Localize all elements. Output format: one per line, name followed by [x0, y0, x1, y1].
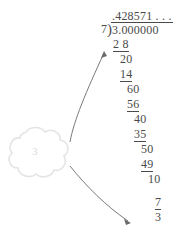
arrow-to-remainder-line: [70, 166, 128, 221]
division-step-7: 50: [141, 143, 153, 155]
arrow-to-first-subtraction-head: [101, 51, 107, 58]
arrow-to-remainder-head: [124, 219, 131, 225]
division-step-1: 20: [120, 53, 132, 65]
division-step-0: 2 8: [113, 38, 129, 52]
division-step-8: 49: [141, 158, 153, 172]
division-step-11: 3: [155, 211, 161, 223]
division-step-9: 10: [148, 173, 160, 185]
division-step-10: 7: [155, 196, 161, 210]
division-step-2: 14: [120, 68, 132, 82]
quotient-value: .428571 . . .: [112, 10, 172, 22]
cloud-callout-shape: [4, 125, 76, 181]
division-step-5: 40: [134, 113, 146, 125]
division-step-4: 56: [127, 98, 139, 112]
dividend-value: 3.000000: [112, 24, 159, 36]
cloud-callout-label: 3: [32, 145, 38, 157]
division-step-6: 35: [134, 128, 146, 142]
long-division-figure: .428571 . . . 7 ) 3.000000 2 82014605640…: [0, 0, 182, 241]
division-step-3: 60: [127, 83, 139, 95]
